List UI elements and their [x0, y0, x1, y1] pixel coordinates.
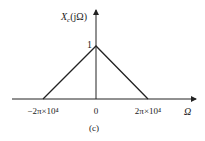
x-axis-label: Ω [184, 106, 191, 117]
peak-label: 1 [87, 39, 92, 50]
tick-neg: −2π×10⁴ [27, 106, 58, 116]
spectrum-diagram: Xc(jΩ) 1 −2π×10⁴ 0 2π×10⁴ Ω (c) [0, 0, 205, 141]
tick-pos: 2π×10⁴ [135, 106, 161, 116]
tick-zero: 0 [94, 106, 99, 116]
y-axis-label: Xc(jΩ) [60, 11, 87, 24]
figure-caption: (c) [89, 123, 99, 133]
